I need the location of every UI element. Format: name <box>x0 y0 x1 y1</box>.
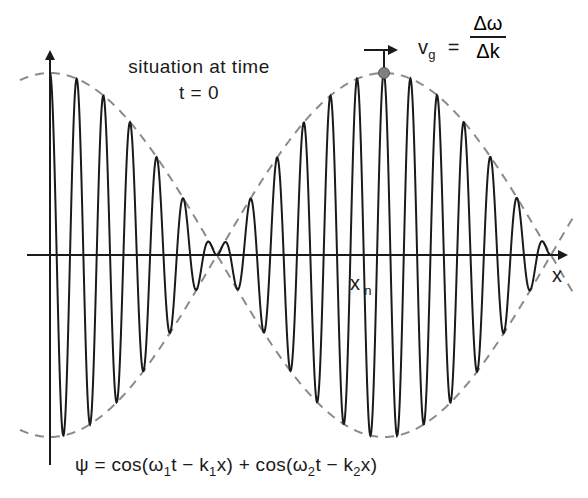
caption-line-2: t = 0 <box>119 82 279 104</box>
vg-symbol: v <box>418 36 428 58</box>
fraction-denominator: Δk <box>476 40 499 63</box>
xn-symbol: x <box>350 272 360 294</box>
group-velocity-label: vg = <box>418 36 460 59</box>
xn-subscript: n <box>364 283 372 298</box>
group-marker-dot <box>379 68 390 79</box>
eq-part-4: t − k <box>315 454 353 475</box>
eq-sub-k2: 2 <box>353 464 361 479</box>
eq-part-2: t − k <box>171 454 209 475</box>
fraction-numerator: Δω <box>474 12 503 35</box>
caption-line-1: situation at time <box>119 56 279 78</box>
envelope-lower-curve <box>20 255 575 437</box>
superposition-equation: ψ = cos(ω1t − k1x) + cos(ω2t − k2x) <box>75 454 377 476</box>
eq-part-1: ψ = cos(ω <box>75 454 164 475</box>
wave-packet-diagram <box>0 0 588 498</box>
group-velocity-fraction: Δω Δk <box>470 12 506 63</box>
fraction-bar <box>470 36 506 38</box>
eq-part-5: x) <box>361 454 377 475</box>
eq-part-3: x) + cos(ω <box>217 454 308 475</box>
vg-equals: = <box>448 36 460 58</box>
eq-sub-omega1: 1 <box>164 464 172 479</box>
x-axis-label: x <box>552 264 562 287</box>
vg-subscript: g <box>428 47 436 62</box>
xn-label: xn <box>350 272 372 295</box>
eq-sub-k1: 1 <box>209 464 217 479</box>
eq-sub-omega2: 2 <box>308 464 316 479</box>
